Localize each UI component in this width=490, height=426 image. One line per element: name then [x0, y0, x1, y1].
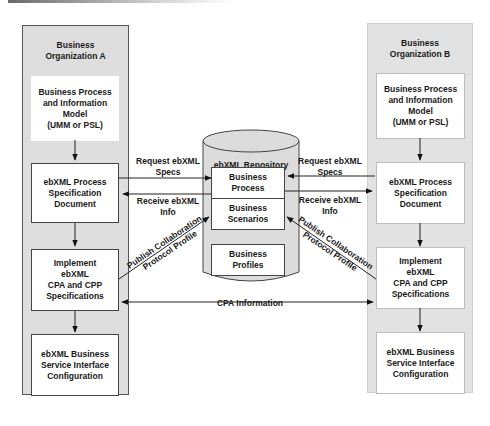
org-a-business-process-model: Business Process and Information Model (…	[31, 76, 119, 141]
org-b-business-process-model: Business Process and Information Model (…	[376, 73, 465, 139]
top-edge-strip	[8, 0, 233, 3]
cpa-information-label: CPA Information	[200, 298, 300, 309]
org-a-business-service-interface: ebXML Business Service Interface Configu…	[31, 334, 119, 396]
repo-business-process: Business Process	[212, 168, 284, 199]
org-b-implement-cpa-cpp: Implement ebXML CPA and CPP Specificatio…	[376, 247, 465, 309]
business-organization-a: Business Organization A Business Process…	[22, 25, 129, 395]
ebxml-architecture-diagram: Business Organization A Business Process…	[0, 0, 490, 426]
org-a-process-specification-document: ebXML Process Specification Document	[31, 163, 119, 223]
repository-process-scenarios-box: Business Process Business Scenarios	[211, 167, 285, 230]
org-a-title: Business Organization A	[23, 40, 128, 62]
publish-cpp-label-left: Publish Collaboration Protocol Profile	[116, 207, 218, 285]
business-organization-b: Business Organization B Business Process…	[367, 23, 473, 393]
repo-business-profiles-box: Business Profiles	[211, 244, 285, 276]
repo-business-scenarios: Business Scenarios	[212, 199, 284, 229]
org-b-process-specification-document: ebXML Process Specification Document	[376, 162, 465, 224]
repo-business-profiles: Business Profiles	[212, 245, 284, 275]
org-b-business-service-interface: ebXML Business Service Interface Configu…	[376, 332, 465, 394]
org-a-implement-cpa-cpp: Implement ebXML CPA and CPP Specificatio…	[31, 249, 119, 311]
receive-info-label-right: Receive ebXML Info	[292, 195, 368, 217]
request-specs-label-left: Request ebXML Specs	[128, 156, 208, 178]
request-specs-label-right: Request ebXML Specs	[292, 156, 368, 178]
org-b-title: Business Organization B	[368, 38, 472, 60]
